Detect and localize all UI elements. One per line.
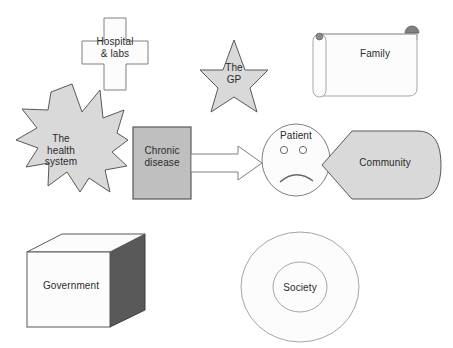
shape-government-cube[interactable]: [27, 234, 145, 327]
diagram-canvas: Hospital & labs The GP Family The health…: [0, 0, 453, 348]
shape-health-system-explosion[interactable]: [16, 84, 128, 192]
patient-eye-left: [280, 146, 287, 153]
diagram-shapes-layer: [0, 0, 453, 348]
shape-community-pentagon[interactable]: [322, 131, 441, 199]
patient-eye-right: [299, 146, 306, 153]
shape-hospital-cross[interactable]: [82, 18, 148, 90]
shape-family-scroll[interactable]: [313, 26, 419, 97]
shape-patient-face[interactable]: [262, 124, 330, 196]
cube-front-face: [27, 252, 110, 327]
connector-disease-to-patient-arrow[interactable]: [191, 146, 262, 180]
society-inner-circle: [273, 262, 327, 312]
shape-society-donut[interactable]: [241, 232, 359, 342]
shape-chronic-disease-box[interactable]: [133, 127, 191, 199]
shape-gp-star[interactable]: [200, 40, 268, 112]
